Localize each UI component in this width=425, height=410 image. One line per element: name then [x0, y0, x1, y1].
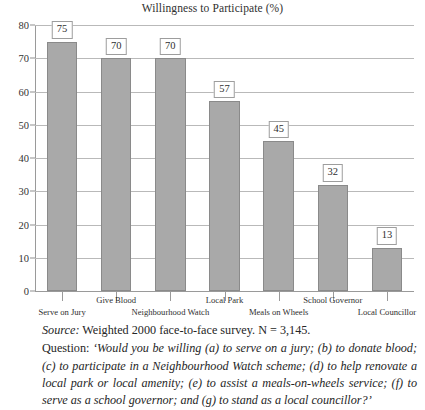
y-axis-tick-label: 80	[19, 20, 30, 31]
x-axis-tick-mark	[170, 292, 171, 301]
bar	[101, 58, 131, 291]
x-axis-tick-mark	[279, 292, 280, 301]
bar-value-label: 57	[214, 81, 235, 99]
x-axis-tick-mark	[387, 292, 388, 301]
y-axis-tick-label: 70	[19, 53, 30, 64]
bar	[209, 101, 239, 291]
bar-slot: 45	[252, 25, 306, 291]
bar-value-label: 75	[52, 21, 73, 39]
y-axis-tick-label: 40	[19, 153, 30, 164]
caption-source-text: Weighted 2000 face-to-face survey. N = 3…	[82, 323, 310, 337]
x-axis-category-label: Meals on Wheels	[249, 307, 309, 317]
chart-title: Willingness to Participate (%)	[0, 2, 425, 14]
x-axis-tick-mark	[62, 292, 63, 301]
y-axis-tick-label: 30	[19, 186, 30, 197]
figure-caption: Source: Weighted 2000 face-to-face surve…	[42, 322, 417, 410]
caption-source-label: Source:	[42, 323, 79, 337]
bar-value-label: 32	[323, 164, 344, 182]
y-axis-tick-label: 20	[19, 219, 30, 230]
x-axis-category-label: Local Park	[206, 295, 243, 305]
bar-slot: 75	[35, 25, 89, 291]
y-axis-tick-label: 10	[19, 252, 30, 263]
bar-value-label: 45	[268, 121, 289, 139]
x-axis-category-label: Give Blood	[96, 295, 136, 305]
caption-question-label: Question:	[42, 341, 89, 355]
bar	[372, 248, 402, 291]
caption-source-line: Source: Weighted 2000 face-to-face surve…	[42, 322, 417, 339]
bar	[155, 58, 185, 291]
bar	[318, 185, 348, 291]
bar-value-label: 70	[106, 38, 127, 56]
bar-value-label: 70	[160, 38, 181, 56]
y-axis-tick-label: 60	[19, 86, 30, 97]
bar	[47, 42, 77, 291]
bar	[263, 141, 293, 291]
caption-question-text: ‘Would you be willing (a) to serve on a …	[42, 341, 417, 407]
caption-question-line: Question: ‘Would you be willing (a) to s…	[42, 340, 417, 409]
x-axis-category-label: Local Councillor	[358, 307, 416, 317]
x-axis-category-label: Neighbourhood Watch	[132, 307, 210, 317]
x-axis-category-label: School Governor	[303, 295, 362, 305]
bar-slot: 70	[143, 25, 197, 291]
bar-slot: 57	[197, 25, 251, 291]
bar-slot: 13	[360, 25, 414, 291]
y-axis-tick-label: 0	[24, 286, 29, 297]
plot-area: 01020304050607080 75707057453213	[35, 25, 414, 292]
bar-slot: 70	[89, 25, 143, 291]
bar-slot: 32	[306, 25, 360, 291]
bar-value-label: 13	[377, 227, 398, 245]
y-axis-tick-label: 50	[19, 119, 30, 130]
x-axis-category-label: Serve on Jury	[38, 307, 85, 317]
